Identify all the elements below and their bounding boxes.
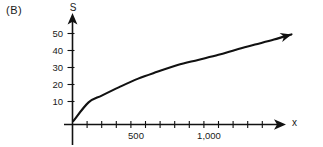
y-axis-ticks xyxy=(68,34,75,102)
x-tick-label: 500 xyxy=(128,130,144,141)
chart-plot: S x 50 40 30 20 10 xyxy=(0,0,323,147)
y-tick-label: 20 xyxy=(52,79,63,90)
y-tick-label: 50 xyxy=(52,28,63,39)
data-curve xyxy=(73,34,291,121)
x-tick-label: 1,000 xyxy=(197,130,221,141)
y-tick-label: 40 xyxy=(52,45,63,56)
y-tick-label: 30 xyxy=(52,62,63,73)
y-axis-title: S xyxy=(70,2,77,13)
chart-screenshot: (B) S x 50 40 30 20 10 xyxy=(0,0,323,147)
y-tick-label: 10 xyxy=(52,96,63,107)
x-axis-title: x xyxy=(292,117,297,128)
